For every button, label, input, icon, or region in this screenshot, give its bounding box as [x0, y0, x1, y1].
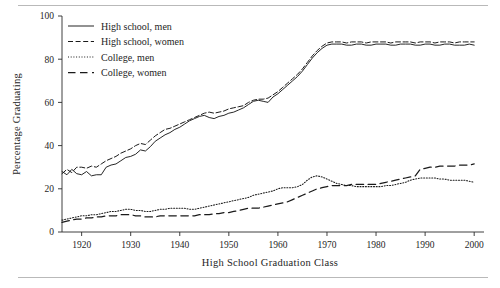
x-tick-label: 1950	[219, 240, 238, 250]
x-axis-title: High School Graduation Class	[202, 257, 338, 268]
y-tick-label: 40	[45, 141, 55, 151]
y-tick-label: 60	[45, 98, 55, 108]
x-tick-label: 2000	[465, 240, 484, 250]
x-tick-label: 1930	[121, 240, 140, 250]
legend-label: High school, women	[101, 36, 184, 47]
line-chart: 020406080100 192019301940195019601970198…	[0, 0, 500, 288]
x-tick-label: 1980	[367, 240, 386, 250]
chart-legend: High school, menHigh school, womenColleg…	[68, 21, 184, 79]
x-tick-label: 1990	[416, 240, 435, 250]
x-tick-label: 1940	[170, 240, 189, 250]
legend-label: College, women	[101, 67, 167, 78]
legend-label: College, men	[101, 52, 154, 63]
figure-container: 020406080100 192019301940195019601970198…	[0, 0, 500, 288]
y-tick-label: 100	[40, 11, 55, 21]
y-axis-ticks: 020406080100	[40, 11, 62, 237]
x-tick-label: 1920	[72, 240, 91, 250]
legend-label: High school, men	[101, 21, 172, 32]
series-line	[62, 164, 474, 222]
x-tick-label: 1970	[317, 240, 336, 250]
series-line	[62, 44, 474, 176]
series-line	[62, 176, 474, 220]
x-axis-ticks: 192019301940195019601970198019902000	[72, 232, 484, 250]
y-tick-label: 0	[49, 227, 54, 237]
y-tick-label: 80	[45, 55, 55, 65]
x-tick-label: 1960	[268, 240, 287, 250]
y-tick-label: 20	[45, 184, 55, 194]
y-axis-title: Percentage Graduating	[11, 72, 22, 175]
